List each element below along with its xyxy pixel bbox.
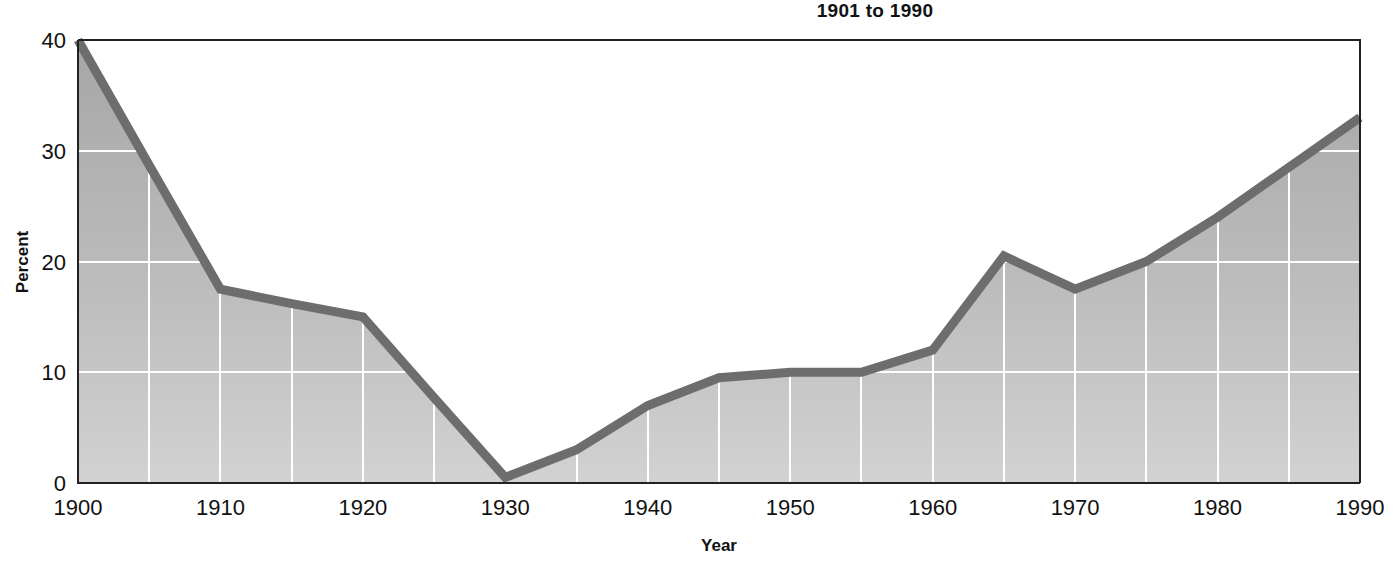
- area-chart: 010203040 190019101920193019401950196019…: [0, 0, 1400, 573]
- x-tick-label: 1900: [54, 495, 103, 520]
- y-tick-label: 10: [42, 360, 66, 385]
- x-tick-label: 1960: [908, 495, 957, 520]
- y-axis-title: Percent: [13, 230, 32, 293]
- x-tick-label: 1970: [1051, 495, 1100, 520]
- y-tick-label: 40: [42, 28, 66, 53]
- y-tick-label: 20: [42, 250, 66, 275]
- y-axis-tick-labels: 010203040: [42, 28, 66, 496]
- x-axis-title: Year: [701, 536, 737, 555]
- x-tick-label: 1940: [623, 495, 672, 520]
- y-tick-label: 0: [54, 471, 66, 496]
- chart-figure: 1901 to 1990 010203040 19001910192019301…: [0, 0, 1400, 573]
- y-tick-label: 30: [42, 139, 66, 164]
- plot-area: [78, 40, 1360, 483]
- x-tick-label: 1920: [338, 495, 387, 520]
- x-tick-label: 1990: [1336, 495, 1385, 520]
- x-tick-label: 1910: [196, 495, 245, 520]
- x-tick-label: 1950: [766, 495, 815, 520]
- x-tick-label: 1980: [1193, 495, 1242, 520]
- x-tick-label: 1930: [481, 495, 530, 520]
- x-axis-tick-labels: 1900191019201930194019501960197019801990: [54, 495, 1385, 520]
